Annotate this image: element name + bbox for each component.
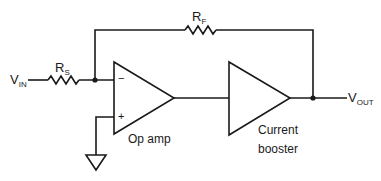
booster-caption-line2: booster (258, 140, 298, 159)
opamp-minus-sign: − (118, 73, 124, 84)
vout-main-text: V (348, 90, 357, 105)
vin-main-text: V (10, 72, 19, 87)
opamp-plus-sign: + (118, 111, 124, 122)
vin-label: VIN (10, 73, 27, 86)
feedback-wire-right (216, 30, 313, 98)
vout-label: VOUT (348, 91, 374, 104)
resistor-rs (48, 76, 79, 84)
junction-dot-inverting (92, 77, 97, 82)
resistor-rf (185, 26, 216, 34)
feedback-wire-left (95, 30, 185, 80)
rf-main-text: R (192, 9, 201, 24)
circuit-diagram: VIN RS RF − + Op amp Current booster VOU… (0, 0, 381, 181)
junction-dot-output (310, 95, 315, 100)
rs-subscript: S (64, 68, 69, 77)
rs-label: RS (55, 61, 70, 74)
rs-main-text: R (55, 60, 64, 75)
opamp-caption: Op amp (128, 133, 171, 145)
rf-subscript: F (201, 17, 206, 26)
booster-caption-line1: Current (258, 121, 298, 140)
booster-caption: Current booster (258, 121, 298, 159)
ground-icon (86, 155, 106, 170)
rf-label: RF (192, 10, 206, 23)
schematic-drawing (0, 0, 381, 181)
noninverting-ground-wire (96, 117, 114, 155)
vout-subscript: OUT (357, 98, 374, 107)
vin-subscript: IN (19, 80, 27, 89)
